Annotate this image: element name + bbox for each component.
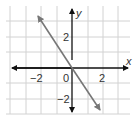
tick-label-x-neg2: −2 bbox=[30, 73, 43, 84]
origin-label: 0 bbox=[63, 73, 69, 84]
tick-label-y-neg2: −2 bbox=[57, 94, 70, 105]
tick-label-x-2: 2 bbox=[99, 73, 105, 84]
tick-label-y-2: 2 bbox=[63, 32, 69, 43]
x-axis-label: x bbox=[126, 56, 132, 67]
axes bbox=[12, 9, 128, 112]
y-axis-label: y bbox=[76, 8, 82, 19]
